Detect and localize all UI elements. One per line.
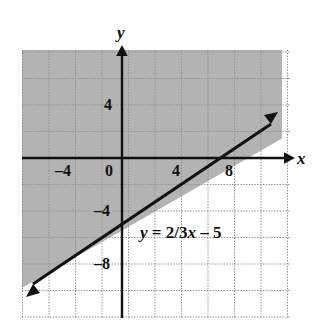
y-tick-label--8: –8	[94, 256, 110, 272]
equation-annotation: y = 2/3x – 5	[140, 224, 221, 241]
equation-equals: =	[152, 223, 162, 242]
equation-variable: x	[187, 223, 196, 242]
y-axis-label: y	[117, 24, 125, 41]
x-axis-label: x	[297, 150, 306, 167]
y-tick-label-4: 4	[104, 97, 112, 113]
figure-page: y x –4 0 4 8 4 –4 –8 y = 2/3x – 5	[0, 0, 316, 336]
x-tick-label-0: 0	[105, 163, 113, 179]
x-tick-label-4: 4	[172, 163, 180, 179]
equation-coefficient: 2/3	[166, 223, 188, 242]
coordinate-plane-figure	[0, 0, 316, 336]
equation-constant: 5	[213, 223, 222, 242]
equation-lhs: y	[140, 223, 148, 242]
x-tick-label--4: –4	[55, 163, 71, 179]
x-tick-label-8: 8	[225, 163, 233, 179]
y-tick-label--4: –4	[94, 203, 110, 219]
equation-minus-sign: –	[200, 223, 209, 242]
